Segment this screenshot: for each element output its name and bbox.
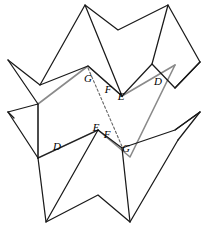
vertex-label-d-upper-right: D xyxy=(153,75,162,87)
geometry-figure: GFEDEFGD xyxy=(0,0,210,230)
vertex-label-f-lower: F xyxy=(103,128,111,140)
figure-canvas: GFEDEFGD xyxy=(0,0,210,230)
vertex-label-d-lower-left: D xyxy=(52,140,61,152)
vertex-label-e-upper: E xyxy=(117,90,125,102)
vertex-label-f-upper: F xyxy=(104,83,112,95)
vertex-label-e-lower: E xyxy=(92,121,100,133)
figure-background xyxy=(0,0,210,230)
vertex-label-g-lower: G xyxy=(122,142,130,154)
vertex-label-g-upper: G xyxy=(84,72,92,84)
